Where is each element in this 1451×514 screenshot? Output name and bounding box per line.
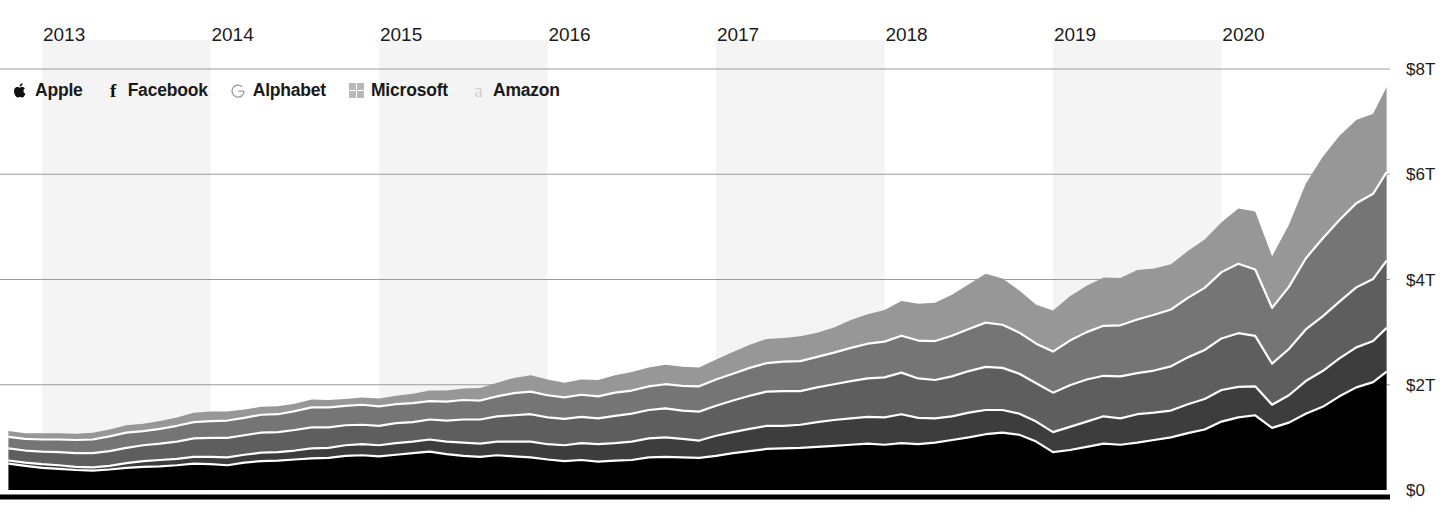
chart-container: 20132014201520162017201820192020 $0$2T$4…: [0, 0, 1451, 514]
legend-label-microsoft: Microsoft: [371, 80, 448, 101]
x-axis-labels: 20132014201520162017201820192020: [43, 24, 1265, 45]
google-g-icon: [230, 82, 247, 99]
legend-item-alphabet[interactable]: Alphabet: [230, 80, 326, 101]
y-tick-label-6T: $6T: [1406, 165, 1435, 184]
y-tick-label-0: $0: [1406, 481, 1425, 500]
facebook-f-icon: f: [105, 82, 122, 99]
legend-label-alphabet: Alphabet: [253, 80, 326, 101]
amazon-a-icon: a: [470, 82, 487, 99]
x-axis-baseline: [0, 492, 1390, 497]
legend-item-amazon[interactable]: a Amazon: [470, 80, 560, 101]
x-tick-label-2014: 2014: [211, 24, 254, 45]
x-tick-label-2017: 2017: [717, 24, 759, 45]
x-tick-label-2018: 2018: [885, 24, 927, 45]
legend-label-apple: Apple: [35, 80, 83, 101]
legend-label-facebook: Facebook: [128, 80, 208, 101]
legend-item-microsoft[interactable]: Microsoft: [348, 80, 448, 101]
y-tick-label-8T: $8T: [1406, 60, 1435, 79]
y-axis-labels: $0$2T$4T$6T$8T: [1406, 60, 1435, 500]
y-tick-label-2T: $2T: [1406, 376, 1435, 395]
x-tick-label-2019: 2019: [1054, 24, 1096, 45]
x-tick-label-2015: 2015: [380, 24, 422, 45]
apple-logo-icon: [12, 82, 29, 99]
x-tick-label-2016: 2016: [548, 24, 590, 45]
x-tick-label-2020: 2020: [1222, 24, 1264, 45]
y-tick-label-4T: $4T: [1406, 271, 1435, 290]
chart-legend: Apple f Facebook Alphabet Microsoft a Am…: [12, 80, 582, 101]
legend-label-amazon: Amazon: [493, 80, 560, 101]
stacked-area-chart: 20132014201520162017201820192020 $0$2T$4…: [0, 0, 1451, 514]
legend-item-facebook[interactable]: f Facebook: [105, 80, 208, 101]
microsoft-squares-icon: [348, 82, 365, 99]
legend-item-apple[interactable]: Apple: [12, 80, 83, 101]
x-tick-label-2013: 2013: [43, 24, 85, 45]
